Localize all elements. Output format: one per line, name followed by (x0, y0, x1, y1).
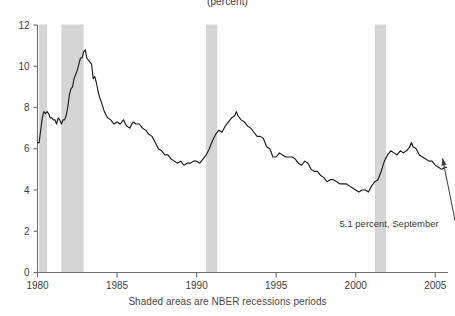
recession-band (39, 25, 47, 273)
y-tick-label: 6 (24, 143, 30, 154)
annotation-arrow-head (441, 158, 446, 165)
x-tick-label: 2005 (424, 280, 447, 291)
annotation-group: 5.1 percent, September (339, 158, 455, 229)
x-tick-label: 1985 (106, 280, 129, 291)
axis-caption: Shaded areas are NBER recessions periods (0, 296, 455, 307)
y-tick-label: 8 (24, 102, 30, 113)
axes-group (38, 25, 449, 273)
recession-band (61, 25, 83, 273)
y-tick-label: 12 (18, 20, 30, 31)
x-tick-label: 1995 (265, 280, 288, 291)
y-tick-label: 10 (18, 61, 30, 72)
annotation-label: 5.1 percent, September (339, 218, 438, 229)
annotation-leader-line (443, 158, 455, 221)
unemployment-rate-chart: 024681012 198019851990199520002005 5.1 p… (0, 0, 455, 316)
recession-bands-group (39, 25, 386, 273)
x-tick-label: 2000 (345, 280, 368, 291)
x-tick-label: 1990 (185, 280, 208, 291)
recession-band (375, 25, 386, 273)
y-tick-label: 4 (24, 185, 30, 196)
y-tick-label: 2 (24, 226, 30, 237)
axis-lines (38, 25, 449, 273)
y-tick-labels-group: 024681012 (18, 20, 30, 279)
x-tick-labels-group: 198019851990199520002005 (26, 280, 446, 291)
y-tick-label: 0 (24, 267, 30, 278)
recession-band (206, 25, 217, 273)
chart-page: (percent) 024681012 19801985199019952000… (0, 0, 455, 316)
x-tick-label: 1980 (26, 280, 49, 291)
